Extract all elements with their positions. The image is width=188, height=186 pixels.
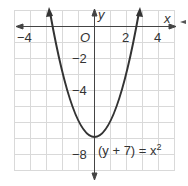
x-tick-label-2: 2 bbox=[122, 31, 129, 44]
equation-text: (y + 7) = x bbox=[98, 143, 157, 158]
side-marker bbox=[180, 20, 186, 24]
equation-exponent: 2 bbox=[157, 142, 162, 152]
x-tick-label-neg4: −4 bbox=[17, 31, 32, 44]
x-axis bbox=[16, 24, 176, 29]
x-tick-label-4: 4 bbox=[154, 31, 161, 44]
parabola-graph bbox=[0, 0, 188, 186]
origin-label: O bbox=[80, 31, 90, 44]
y-tick-label-neg2: −2 bbox=[72, 52, 87, 65]
x-axis-label: x bbox=[164, 12, 171, 25]
y-tick-label-neg4: −4 bbox=[72, 84, 87, 97]
equation-label: (y + 7) = x2 bbox=[98, 143, 162, 157]
y-tick-label-neg8: −8 bbox=[72, 148, 87, 161]
y-axis-label: y bbox=[98, 8, 105, 21]
